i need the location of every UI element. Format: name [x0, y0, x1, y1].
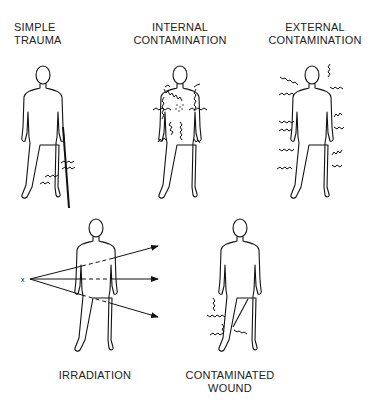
source-symbol: x [21, 276, 25, 283]
figure-irradiation [75, 219, 118, 351]
radiation-rays [30, 246, 158, 317]
figure-contaminated-wound [207, 219, 261, 351]
wound-line [233, 299, 248, 327]
diagram-canvas: x [0, 0, 375, 409]
figure-internal-contamination [153, 66, 207, 198]
figure-external-contamination [277, 64, 344, 198]
figure-simple-trauma [22, 66, 75, 208]
